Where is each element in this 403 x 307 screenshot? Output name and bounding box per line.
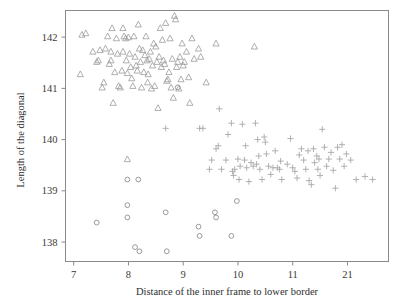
data-point-plus xyxy=(218,166,224,172)
data-point-plus xyxy=(235,156,241,162)
data-point-plus xyxy=(301,157,307,163)
data-point-triangle xyxy=(109,25,115,31)
axis-ticks xyxy=(62,37,348,265)
data-point-triangle xyxy=(112,69,118,75)
data-point-triangle xyxy=(124,156,130,162)
data-point-triangle xyxy=(170,94,176,100)
data-point-plus xyxy=(241,157,247,163)
data-point-triangle xyxy=(113,35,119,41)
data-point-plus xyxy=(321,144,327,150)
data-point-circle xyxy=(137,249,142,254)
data-point-triangle xyxy=(183,48,189,54)
data-point-triangle xyxy=(198,54,204,60)
data-point-circle xyxy=(213,210,218,215)
x-tick-label: 10 xyxy=(233,269,244,280)
data-point-plus xyxy=(237,163,243,169)
plot-frame xyxy=(66,11,389,262)
data-point-circle xyxy=(234,199,239,204)
data-point-triangle xyxy=(101,79,107,85)
data-point-plus xyxy=(311,160,317,166)
data-point-triangle xyxy=(126,50,132,56)
markers-layer xyxy=(77,13,376,254)
data-point-triangle xyxy=(128,64,134,70)
x-axis-title: Distance of the inner frame to lower bor… xyxy=(136,286,319,297)
data-point-circle xyxy=(94,220,99,225)
data-point-triangle xyxy=(135,21,141,27)
data-point-triangle xyxy=(90,48,96,54)
data-point-plus xyxy=(268,171,274,177)
data-point-triangle xyxy=(251,43,257,49)
data-point-circle xyxy=(136,177,141,182)
data-point-plus xyxy=(206,166,212,172)
data-point-plus xyxy=(362,173,368,179)
data-point-triangle xyxy=(168,84,174,90)
data-point-triangle xyxy=(155,105,161,111)
data-point-triangle xyxy=(203,79,209,85)
data-point-circle xyxy=(229,233,234,238)
axis-tick-labels: 789101121138139140141142 xyxy=(42,32,353,280)
x-tick-label: 9 xyxy=(181,269,186,280)
data-point-plus xyxy=(287,135,293,141)
data-point-plus xyxy=(305,148,311,154)
data-point-triangle xyxy=(191,56,197,62)
data-point-triangle xyxy=(143,33,149,39)
data-point-triangle xyxy=(123,57,129,63)
data-point-plus xyxy=(244,165,250,171)
data-point-triangle xyxy=(195,45,201,51)
data-point-plus xyxy=(278,158,284,164)
data-point-triangle xyxy=(213,40,219,46)
data-point-plus xyxy=(315,166,321,172)
data-point-plus xyxy=(303,166,309,172)
data-point-circle xyxy=(125,203,130,208)
data-point-triangle xyxy=(189,35,195,41)
data-point-plus xyxy=(243,143,249,149)
data-point-plus xyxy=(239,121,245,127)
data-point-plus xyxy=(266,163,272,169)
data-point-triangle xyxy=(105,33,111,39)
data-point-circle xyxy=(164,249,169,254)
data-point-triangle xyxy=(172,16,178,22)
data-point-plus xyxy=(294,175,300,181)
data-point-plus xyxy=(223,157,229,163)
data-point-plus xyxy=(370,176,376,182)
data-point-plus xyxy=(353,176,359,182)
y-tick-label: 142 xyxy=(42,32,58,43)
data-point-plus xyxy=(255,136,261,142)
data-point-triangle xyxy=(110,100,116,106)
data-point-plus xyxy=(263,151,269,157)
data-point-plus xyxy=(200,125,206,131)
data-point-plus xyxy=(228,120,234,126)
data-point-triangle xyxy=(120,25,126,31)
data-point-triangle xyxy=(145,79,151,85)
data-point-plus xyxy=(279,176,285,182)
data-point-triangle xyxy=(186,74,192,80)
data-point-plus xyxy=(262,139,268,145)
data-point-circle xyxy=(197,233,202,238)
data-point-triangle xyxy=(138,84,144,90)
data-point-triangle xyxy=(77,71,83,77)
data-point-triangle xyxy=(176,85,182,91)
data-point-plus xyxy=(209,157,215,163)
data-point-plus xyxy=(337,156,343,162)
data-point-circle xyxy=(125,177,130,182)
scatter-plot-figure: 789101121138139140141142 Distance of the… xyxy=(0,0,403,307)
data-point-circle xyxy=(133,245,138,250)
data-point-triangle xyxy=(141,69,147,75)
data-point-triangle xyxy=(114,50,120,56)
data-point-triangle xyxy=(159,37,165,43)
data-point-triangle xyxy=(119,67,125,73)
x-tick-label: 11 xyxy=(288,269,298,280)
data-point-circle xyxy=(163,210,168,215)
data-point-triangle xyxy=(163,20,169,26)
data-point-plus xyxy=(341,163,347,169)
y-tick-label: 141 xyxy=(42,83,58,94)
x-tick-label: 21 xyxy=(342,269,353,280)
data-point-plus xyxy=(310,146,316,152)
data-point-triangle xyxy=(179,40,185,46)
data-point-circle xyxy=(214,215,219,220)
data-point-plus xyxy=(230,172,236,178)
data-point-plus xyxy=(225,131,231,137)
data-point-plus xyxy=(324,163,330,169)
data-point-triangle xyxy=(166,69,172,75)
y-tick-label: 139 xyxy=(42,185,58,196)
